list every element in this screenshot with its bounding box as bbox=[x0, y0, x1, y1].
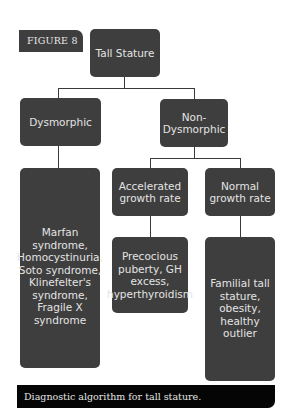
leaf-accelerated-causes: Precocious puberty, GH excess, hyperthyr… bbox=[112, 237, 188, 313]
connector-nondys-stem bbox=[194, 147, 195, 158]
node-normal-growth-label: Normal growth rate bbox=[209, 180, 271, 205]
connector-nondys-bar bbox=[150, 158, 241, 159]
leaf-normal-causes: Familial tall stature, obesity, healthy … bbox=[205, 237, 275, 381]
connector-accelerated-leaf bbox=[150, 216, 151, 237]
node-non-dysmorphic: Non-Dysmorphic bbox=[160, 99, 228, 147]
node-tall-stature-label: Tall Stature bbox=[96, 47, 155, 60]
leaf-accelerated-causes-text: Precocious puberty, GH excess, hyperthyr… bbox=[107, 250, 193, 300]
connector-to-dysmorphic bbox=[58, 88, 59, 98]
connector-to-non-dysmorphic bbox=[194, 88, 195, 99]
connector-to-normal bbox=[240, 158, 241, 168]
leaf-dysmorphic-causes-text: Marfan syndrome, Homocystinuria, Soto sy… bbox=[17, 226, 103, 326]
node-accelerated-growth: Accelerated growth rate bbox=[112, 168, 188, 216]
leaf-normal-causes-text: Familial tall stature, obesity, healthy … bbox=[209, 277, 271, 340]
figure-label: FIGURE 8 bbox=[19, 30, 83, 52]
node-accelerated-growth-label: Accelerated growth rate bbox=[118, 180, 182, 205]
leaf-dysmorphic-causes: Marfan syndrome, Homocystinuria, Soto sy… bbox=[20, 168, 100, 368]
connector-root-stem bbox=[124, 77, 125, 88]
figure-caption: Diagnostic algorithm for tall stature. bbox=[17, 385, 275, 408]
connector-dysmorphic-leaf bbox=[58, 146, 59, 168]
connector-to-accelerated bbox=[150, 158, 151, 168]
connector-normal-leaf bbox=[240, 216, 241, 237]
node-dysmorphic-label: Dysmorphic bbox=[29, 116, 92, 129]
connector-root-bar bbox=[58, 88, 195, 89]
node-normal-growth: Normal growth rate bbox=[205, 168, 275, 216]
node-non-dysmorphic-label: Non-Dysmorphic bbox=[163, 111, 226, 136]
node-tall-stature: Tall Stature bbox=[90, 29, 160, 77]
node-dysmorphic: Dysmorphic bbox=[20, 98, 101, 146]
